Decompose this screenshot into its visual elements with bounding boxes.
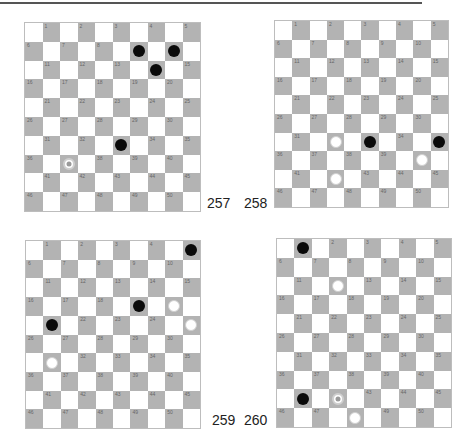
light-square [344, 170, 361, 189]
light-square [292, 188, 309, 207]
square-number: 3 [115, 242, 118, 247]
square-44: 44 [399, 389, 416, 408]
light-square [344, 133, 361, 152]
square-number: 30 [167, 336, 173, 341]
square-number: 4 [401, 240, 404, 245]
light-square [277, 239, 294, 258]
black-piece-icon [297, 393, 309, 405]
square-45: 45 [183, 391, 200, 410]
square-number: 28 [346, 115, 352, 120]
light-square [329, 333, 346, 352]
square-5: 5 [183, 23, 201, 42]
square-number: 49 [132, 410, 138, 415]
square-number: 50 [167, 193, 173, 198]
square-46: 46 [26, 409, 43, 428]
square-number: 45 [433, 171, 439, 176]
square-number: 6 [27, 43, 30, 48]
square-number: 19 [383, 296, 389, 301]
light-square [148, 335, 165, 354]
light-square [275, 58, 292, 77]
light-square [130, 353, 147, 372]
light-square [148, 117, 166, 136]
light-square [148, 42, 166, 61]
marked-white-piece-icon [332, 393, 344, 405]
square-number: 41 [45, 392, 51, 397]
square-19: 19 [379, 77, 396, 96]
square-number: 22 [331, 315, 337, 320]
square-45: 45 [183, 173, 201, 192]
square-number: 48 [346, 189, 352, 194]
square-number: 27 [314, 334, 320, 339]
square-46: 46 [277, 408, 294, 427]
square-24: 24 [396, 95, 413, 114]
square-43: 43 [113, 391, 130, 410]
light-square [78, 409, 95, 428]
light-square [183, 409, 200, 428]
square-43: 43 [364, 389, 381, 408]
light-square [329, 408, 346, 427]
light-square [413, 95, 430, 114]
square-number: 3 [363, 22, 366, 27]
square-number: 8 [97, 43, 100, 48]
square-50: 50 [413, 188, 430, 207]
square-number: 5 [436, 240, 439, 245]
square-number: 22 [80, 317, 86, 322]
square-42: 42 [78, 173, 96, 192]
square-number: 18 [98, 298, 104, 303]
square-number: 27 [312, 115, 318, 120]
square-38: 38 [95, 155, 113, 174]
square-9 [130, 42, 148, 61]
square-39: 39 [379, 151, 396, 170]
square-41: 41 [292, 170, 309, 189]
square-number: 41 [294, 171, 300, 176]
square-number: 20 [418, 296, 424, 301]
light-square [113, 260, 130, 279]
square-number: 37 [312, 152, 318, 157]
square-33: 33 [113, 353, 130, 372]
light-square [344, 21, 361, 40]
square-17: 17 [310, 77, 327, 96]
diagram-number: 257 [207, 196, 230, 210]
light-square [60, 61, 78, 80]
light-square [130, 136, 148, 155]
square-number: 47 [312, 189, 318, 194]
light-square [431, 188, 448, 207]
light-square [396, 188, 413, 207]
square-number: 43 [115, 174, 121, 179]
square-number: 40 [167, 156, 173, 161]
light-square [399, 258, 416, 277]
square-27: 27 [310, 114, 327, 133]
light-square [148, 372, 165, 391]
square-36: 36 [277, 371, 294, 390]
square-number: 30 [415, 115, 421, 120]
light-square [413, 133, 430, 152]
square-43: 43 [113, 173, 131, 192]
square-13: 13 [113, 61, 131, 80]
square-number: 13 [366, 278, 372, 283]
square-11: 11 [43, 61, 61, 80]
square-number: 39 [132, 373, 138, 378]
light-square [277, 352, 294, 371]
light-square [434, 371, 451, 390]
square-39: 39 [381, 371, 398, 390]
light-square [275, 133, 292, 152]
square-10: 10 [165, 260, 182, 279]
square-2: 2 [78, 241, 95, 260]
square-48 [347, 408, 364, 427]
square-number: 3 [366, 240, 369, 245]
square-33: 33 [364, 352, 381, 371]
square-50: 50 [165, 192, 183, 211]
square-number: 46 [27, 193, 33, 198]
square-number: 15 [436, 278, 442, 283]
light-square [294, 258, 311, 277]
light-square [310, 170, 327, 189]
square-47: 47 [60, 192, 78, 211]
square-number: 15 [185, 62, 191, 67]
square-20: 20 [165, 79, 183, 98]
light-square [183, 117, 201, 136]
light-square [327, 40, 344, 59]
light-square [416, 239, 433, 258]
diagram-number: 259 [212, 413, 235, 427]
square-number: 12 [329, 59, 335, 64]
square-46: 46 [275, 188, 292, 207]
